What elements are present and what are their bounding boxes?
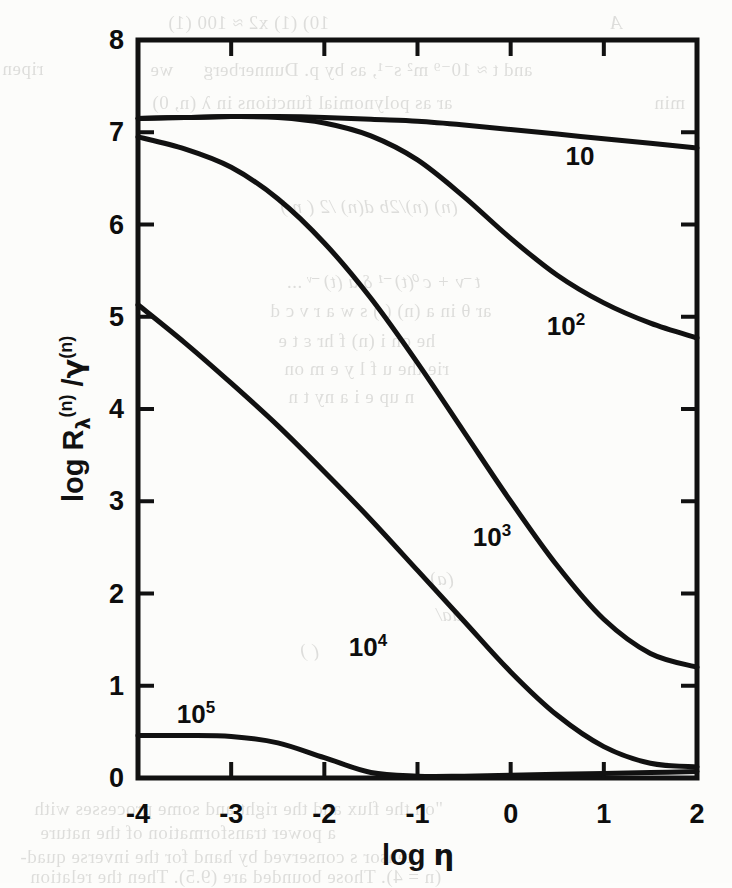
y-tick-label: 6 (109, 209, 124, 240)
x-axis-title: log η (382, 838, 454, 872)
y-tick-label: 4 (109, 394, 124, 425)
y-tick-label: 0 (109, 763, 124, 794)
y-tick-label: 2 (109, 578, 124, 609)
curve-10^4 (138, 305, 697, 767)
y-axis-title-sub: λ (72, 418, 94, 430)
y-axis-title-divider: / (57, 378, 89, 386)
y-axis-title-denominator: γ (56, 359, 90, 379)
y-axis-title-prefix: log (57, 459, 89, 503)
x-tick-label: -1 (405, 799, 429, 830)
curve-label-base: 10 (566, 141, 595, 171)
curve-label: 105 (177, 698, 215, 730)
plot-frame (138, 40, 697, 778)
curve-label-base: 10 (349, 632, 378, 662)
x-tick-label: 2 (689, 799, 704, 830)
curve-label-base: 10 (473, 522, 502, 552)
x-axis-title-symbol: η (433, 838, 454, 872)
y-axis-title-denominator-sup: (n) (56, 336, 76, 359)
y-tick-label: 7 (109, 117, 124, 148)
curve-10^2 (138, 117, 697, 338)
curve-label: 103 (473, 521, 511, 553)
y-axis-title-main: R (57, 430, 89, 451)
data-curves (138, 116, 697, 776)
curve-label: 104 (349, 631, 387, 663)
curve-label-exponent: 2 (576, 310, 585, 329)
curve-10 (138, 116, 697, 147)
x-tick-label: -2 (312, 799, 336, 830)
curve-label-base: 10 (177, 699, 206, 729)
x-axis-title-prefix: log (382, 839, 426, 871)
curve-10^3 (138, 137, 697, 667)
x-tick-label: 1 (596, 799, 611, 830)
y-tick-label: 1 (109, 670, 124, 701)
axis-frame (138, 40, 697, 778)
y-tick-label: 8 (109, 25, 124, 56)
x-tick-label: -4 (126, 799, 150, 830)
y-axis-title-sup: (n) (56, 395, 76, 418)
y-tick-label: 5 (109, 301, 124, 332)
y-tick-label: 3 (109, 486, 124, 517)
curve-label-exponent: 4 (378, 631, 387, 650)
x-tick-label: 0 (503, 799, 518, 830)
curve-label: 10 (566, 141, 595, 172)
curve-label: 102 (547, 310, 585, 342)
x-tick-label: -3 (219, 799, 243, 830)
curve-label-base: 10 (547, 311, 576, 341)
curve-label-exponent: 5 (206, 698, 215, 717)
tick-marks (138, 40, 697, 778)
curve-label-exponent: 3 (502, 521, 511, 540)
y-axis-title: log Rλ(n) /γ(n) (56, 289, 94, 549)
